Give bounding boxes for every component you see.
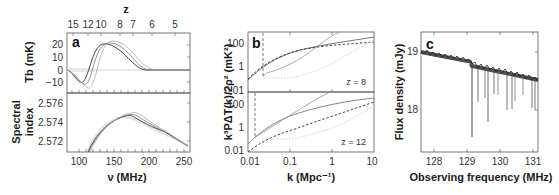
svg-text:10: 10 [52,52,64,63]
svg-text:250: 250 [176,156,193,167]
panel-c-spectrum [421,50,538,137]
svg-text:1: 1 [238,61,244,72]
z-8-annotation: z = 8 [346,77,366,87]
observing-frequency-axis-label: Observing frequency (MHz) [409,171,552,183]
panel-b-top-curves [248,32,374,80]
k-axis-label: k (Mpc⁻¹) [287,171,336,183]
svg-text:129: 129 [459,156,476,167]
svg-text:5: 5 [172,19,178,30]
svg-text:200: 200 [141,156,158,167]
svg-text:0.01: 0.01 [225,85,245,96]
frequency-axis-label: ν (MHz) [107,171,146,183]
svg-text:15: 15 [67,19,79,30]
svg-text:6: 6 [149,19,155,30]
svg-text:10: 10 [366,156,378,167]
svg-text:1: 1 [238,122,244,133]
svg-text:2.574: 2.574 [38,117,63,128]
svg-text:18: 18 [407,104,419,115]
panel-label-a: a [72,34,80,50]
svg-text:130: 130 [492,156,509,167]
z-12-annotation: z = 12 [341,137,366,147]
svg-text:0: 0 [57,65,63,76]
spectral-index-label-line1: Spectral [10,100,22,143]
svg-text:100: 100 [71,156,88,167]
svg-text:8: 8 [117,19,123,30]
panel-a-bottom-frame [67,93,190,152]
svg-text:12: 12 [82,19,94,30]
panel-a: z 15 12 10 8 7 6 5 [10,3,193,183]
tb-axis-label: Tb (mK) [23,41,35,83]
z-ticks: 15 12 10 8 7 6 5 [67,19,178,30]
z-axis-label: z [123,3,129,15]
svg-text:0.1: 0.1 [283,156,297,167]
panel-a-bottom-curves [88,113,188,152]
svg-text:10: 10 [95,19,107,30]
svg-text:2.576: 2.576 [38,98,63,109]
svg-text:20: 20 [52,39,64,50]
figure-canvas: z 15 12 10 8 7 6 5 [0,0,559,195]
svg-text:1: 1 [329,156,335,167]
svg-text:7: 7 [130,19,136,30]
svg-text:19: 19 [407,46,419,57]
svg-text:2.572: 2.572 [38,136,63,147]
panel-c-frame [421,32,538,152]
svg-text:0.01: 0.01 [225,145,245,156]
panel-c: Flux density (mJy) 19 18 128 129 130 131… [393,32,553,183]
panel-label-b: b [252,35,261,51]
spectral-index-label-line2: index [23,107,35,137]
svg-text:150: 150 [106,156,123,167]
svg-text:100: 100 [227,99,244,110]
svg-text:128: 128 [426,156,443,167]
flux-density-axis-label: Flux density (mJy) [393,43,405,140]
svg-text:−10: −10 [46,77,63,88]
panel-c-ticks [434,32,538,152]
svg-text:0.01: 0.01 [240,156,260,167]
svg-text:131: 131 [525,156,542,167]
panel-a-top-curves [67,41,190,88]
panel-b: k³PΔT(k)/2ρ² (mK²) 100 1 0.01 100 1 0.01… [222,32,378,183]
svg-text:100: 100 [227,38,244,49]
